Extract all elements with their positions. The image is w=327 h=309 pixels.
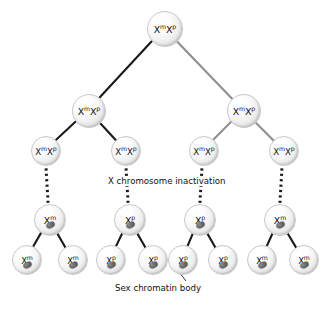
cell-genotype-label: XmXp — [35, 146, 56, 156]
cell-node-g3n3: XmXp — [189, 136, 219, 166]
cell-node-g4n2: Xp — [114, 204, 146, 236]
cell-node-g4n3: Xp — [184, 204, 216, 236]
cell-node-g4n1: Xm — [34, 204, 66, 236]
lineage-edge — [98, 40, 153, 99]
lineage-edge — [254, 121, 274, 141]
lineage-edge — [212, 121, 232, 141]
lineage-edge — [175, 40, 232, 100]
cell-node-g5n3: Xp — [96, 245, 126, 275]
cell-node-g5n6: Xp — [208, 245, 238, 275]
lineage-edge — [46, 163, 48, 205]
lineage-edge — [55, 120, 77, 141]
cell-node-g3n2: XmXp — [111, 136, 141, 166]
ann-inactivation: X chromosome inactivation — [106, 176, 228, 186]
ann-chromatin: Sex chromatin body — [113, 283, 203, 293]
cell-node-g2n2: XmXp — [227, 94, 261, 128]
cell-node-g5n1: Xm — [12, 245, 42, 275]
cell-node-g5n5: Xp — [168, 245, 198, 275]
lineage-edge — [98, 121, 116, 140]
cell-node-g1n1: XmXp — [147, 11, 183, 47]
cell-genotype-label: XmXp — [273, 146, 294, 156]
cell-node-g3n1: XmXp — [31, 136, 61, 166]
cell-genotype-label: XmXp — [193, 146, 214, 156]
cell-genotype-label: XmXp — [154, 24, 177, 35]
lineage-edge — [280, 163, 282, 205]
xci-lineage-diagram: XmXpXmXpXmXpXmXpXmXpXmXpXmXpXmXpXpXmXmXm… — [0, 0, 327, 309]
cell-genotype-label: XmXp — [78, 106, 101, 117]
cell-node-g2n1: XmXp — [72, 94, 106, 128]
cell-node-g5n7: Xm — [247, 245, 277, 275]
cell-node-g4n4: Xm — [264, 204, 296, 236]
cell-node-g3n4: XmXp — [269, 136, 299, 166]
cell-node-g5n8: Xm — [289, 245, 319, 275]
cell-genotype-label: XmXp — [115, 146, 136, 156]
cell-genotype-label: XmXp — [233, 106, 256, 117]
lineage-edge — [32, 231, 42, 248]
cell-node-g5n4: Xp — [138, 245, 168, 275]
cell-node-g5n2: Xm — [58, 245, 88, 275]
